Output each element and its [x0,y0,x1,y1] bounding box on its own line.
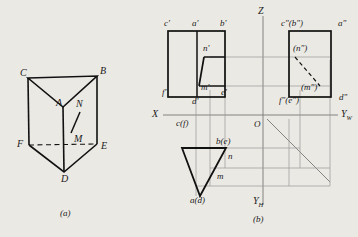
front-label-b-prime: b' [220,19,226,28]
prism-top-face [28,76,97,107]
prism-label-a: A [56,98,62,108]
side-label-c-b-double-prime: c"(b") [281,19,303,28]
axis-label-yh-sub: H [259,201,264,208]
pictorial-prism [28,76,97,172]
side-label-d-double-prime: d" [339,93,347,102]
front-view [168,31,225,97]
top-label-m: m [217,172,224,181]
axis-label-yw: YW [341,109,352,122]
front-label-n-prime: n' [203,44,209,53]
axis-label-z: Z [258,6,264,16]
prism-label-n: N [76,99,83,109]
front-label-a-prime: a' [192,19,198,28]
front-label-f-prime: f' [162,88,166,97]
axis-label-yh: YH [253,196,263,209]
prism-edge-cf [28,78,29,145]
side-label-m-double-prime: (m") [301,83,317,92]
projection-axes [163,16,338,205]
miter-line-45deg [267,119,330,182]
side-label-f-e-double-prime: f"(e") [279,96,299,105]
caption-a: (a) [60,208,71,218]
top-label-a-d: a(d) [190,196,205,205]
front-label-d-prime: d' [192,97,198,106]
prism-label-e: E [101,141,107,151]
prism-edge-ad [63,107,64,172]
prism-label-m: M [74,134,82,144]
caption-b: (b) [253,214,264,224]
top-label-n: n [228,152,233,161]
prism-segment-mn [71,112,80,133]
side-label-a-double-prime: a" [338,19,346,28]
front-label-m-prime: m' [201,83,209,92]
prism-label-c: C [20,68,27,78]
axis-label-origin: O [254,120,261,129]
top-label-b-e: b(e) [216,137,231,146]
prism-label-d: D [61,174,68,184]
axis-label-x: X [152,109,158,119]
front-label-c-prime: c' [164,19,170,28]
front-label-e-prime: e' [221,88,227,97]
side-label-n-double-prime: (n") [293,44,307,53]
prism-label-b: B [100,66,106,76]
axis-label-yw-sub: W [347,114,352,121]
prism-label-f: F [17,139,23,149]
top-label-c-f: c(f) [176,119,189,128]
